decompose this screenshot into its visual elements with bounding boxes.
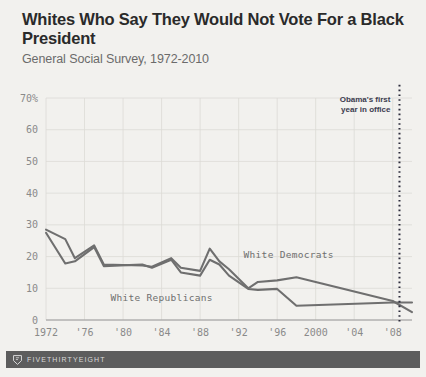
y-tick-label: 20: [26, 251, 38, 262]
chart-subtitle: General Social Survey, 1972-2010: [22, 52, 414, 67]
x-tick-label: '92: [230, 327, 248, 338]
y-tick-label: 30: [26, 219, 38, 230]
x-tick-label: '80: [114, 327, 132, 338]
y-tick-label: 40: [26, 188, 38, 199]
footer-brand-text: FIVETHIRTYEIGHT: [27, 356, 106, 363]
chart-header: Whites Who Say They Would Not Vote For a…: [22, 10, 414, 67]
fivethirtyeight-logo-icon: [13, 355, 22, 365]
annotation-line-1: Obama's first: [340, 95, 391, 104]
x-tick-label: 2000: [304, 327, 328, 338]
x-tick-label: '96: [268, 327, 286, 338]
x-tick-label: '84: [153, 327, 171, 338]
series-label: White Democrats: [244, 249, 334, 260]
annotation-line-2: year in office: [341, 105, 391, 114]
y-tick-label: 50: [26, 156, 38, 167]
x-tick-label: 1972: [34, 327, 58, 338]
y-tick-label: 0: [32, 315, 38, 326]
line-chart-svg: 010203040506070% 1972'76'80'84'88'92'962…: [0, 84, 426, 346]
series-inline-labels: White DemocratsWhite Republicans: [110, 249, 333, 303]
series-label: White Republicans: [110, 292, 212, 303]
y-tick-label: 60: [26, 124, 38, 135]
page-title: Whites Who Say They Would Not Vote For a…: [22, 10, 414, 49]
x-tick-label: '08: [384, 327, 402, 338]
x-tick-label: '76: [75, 327, 93, 338]
x-tick-label: '04: [345, 327, 363, 338]
gridlines: [46, 98, 412, 320]
series-lines: [46, 230, 412, 312]
footer-brand-bar: FIVETHIRTYEIGHT: [6, 351, 420, 368]
x-tick-label: '88: [191, 327, 209, 338]
plot-area: 010203040506070% 1972'76'80'84'88'92'962…: [0, 84, 426, 346]
chart-figure: Whites Who Say They Would Not Vote For a…: [0, 0, 426, 377]
y-tick-label: 70%: [20, 93, 38, 104]
x-axis-tick-labels: 1972'76'80'84'88'92'962000'04'08: [34, 327, 402, 338]
series-line: [46, 230, 412, 312]
y-tick-label: 10: [26, 283, 38, 294]
y-axis-tick-labels: 010203040506070%: [20, 93, 38, 326]
